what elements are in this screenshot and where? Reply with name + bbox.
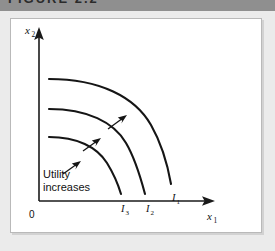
y-axis-label: x 2 (24, 24, 36, 39)
curve-label-i2: I 2 (145, 203, 155, 217)
y-axis-label-subscript: 2 (32, 30, 36, 39)
figure-caption-text: FIGURE 2.2 (8, 0, 99, 6)
curve-label-i1-text: I (171, 192, 176, 203)
utility-increases-line-2: increases (43, 181, 91, 193)
utility-increases-annotation: Utility increases (43, 168, 91, 193)
curve-label-i1-subscript: 1 (177, 198, 181, 206)
indifference-curve-chart: x 2 x 1 0 I 3 I 2 I (11, 19, 261, 232)
curve-label-i2-text: I (145, 203, 150, 214)
x-axis-label: x 1 (206, 210, 218, 225)
utility-increases-line-1: Utility (43, 168, 70, 180)
origin-label: 0 (29, 209, 35, 220)
x-axis-label-subscript: 1 (214, 216, 218, 225)
curve-label-i3-text: I (120, 203, 125, 214)
curve-label-i3-subscript: 3 (126, 209, 130, 217)
y-axis-label-text: x (24, 24, 30, 36)
figure-container: FIGURE 2.2 x 2 x 1 0 I (0, 0, 275, 251)
x-axis-label-text: x (206, 210, 212, 222)
plot-panel: x 2 x 1 0 I 3 I 2 I (10, 18, 262, 233)
figure-caption-band: FIGURE 2.2 (0, 0, 275, 11)
curve-label-i3: I 3 (120, 203, 130, 217)
curve-label-i2-subscript: 2 (151, 209, 155, 217)
curve-label-i1: I 1 (171, 192, 181, 206)
utility-direction-arrow-1 (108, 115, 127, 129)
